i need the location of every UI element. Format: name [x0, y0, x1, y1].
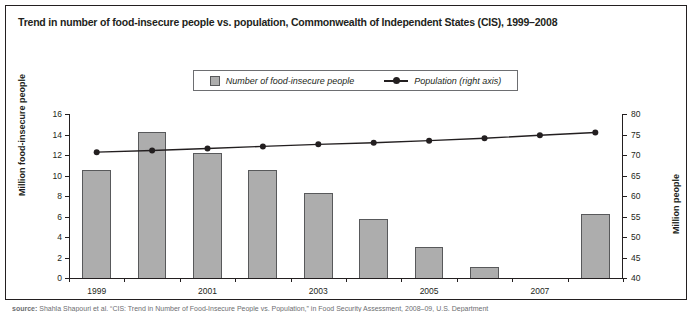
right-axis-tick: [623, 155, 627, 156]
right-axis-tick: [623, 237, 627, 238]
right-axis-tick-label: 75: [631, 131, 640, 140]
x-axis-tick: [180, 278, 181, 282]
right-axis-tick: [623, 114, 627, 115]
legend-swatch-icon: [210, 76, 220, 86]
left-axis-tick-label: 10: [53, 172, 62, 181]
population-point: 2007: 74.8: [537, 132, 543, 138]
source-text: Shahla Shapouri et al. “CIS: Trend in Nu…: [39, 305, 488, 312]
left-axis-tick-label: 16: [53, 110, 62, 119]
right-axis-tick-label: 60: [631, 192, 640, 201]
right-axis-tick: [623, 135, 627, 136]
population-point: 2000: 71.1: [149, 147, 155, 153]
legend-label-line: Population (right axis): [414, 76, 501, 86]
right-axis-tick: [623, 176, 627, 177]
figure-container: Trend in number of food-insecure people …: [0, 0, 692, 316]
figure-frame: Trend in number of food-insecure people …: [5, 5, 687, 300]
legend-entry-line: Population (right axis): [384, 76, 501, 86]
x-axis-tick-label: 2005: [420, 286, 439, 296]
x-axis-tick: [346, 278, 347, 282]
right-axis-title: Million people: [671, 174, 681, 234]
legend-label-bars: Number of food-insecure people: [226, 76, 355, 86]
right-axis-tick-label: 70: [631, 151, 640, 160]
population-point: 2008: 75.5: [592, 129, 598, 135]
legend-entry-bars: Number of food-insecure people: [210, 76, 355, 86]
figure-title: Trend in number of food-insecure people …: [18, 16, 557, 28]
x-axis-tick-label: 2007: [530, 286, 549, 296]
right-axis-tick: [623, 258, 627, 259]
x-axis-tick: [512, 278, 513, 282]
population-line: [97, 132, 596, 152]
population-point: 2006: 74.1: [482, 135, 488, 141]
right-axis-tick-label: 40: [631, 274, 640, 283]
right-axis-tick-label: 65: [631, 172, 640, 181]
x-axis-tick: [623, 278, 624, 282]
population-point: 2001: 71.6: [205, 145, 211, 151]
right-axis-tick-label: 50: [631, 233, 640, 242]
left-axis-tick-label: 8: [57, 192, 62, 201]
population-point: 2002: 72.1: [260, 143, 266, 149]
x-axis-tick-label: 1999: [87, 286, 106, 296]
x-axis-tick: [69, 278, 70, 282]
right-axis-tick: [623, 217, 627, 218]
legend-line-marker-icon: [384, 76, 408, 86]
left-axis-title: Million food-insecure people: [17, 74, 27, 196]
left-axis-tick-label: 0: [57, 274, 62, 283]
x-axis-tick-label: 2003: [309, 286, 328, 296]
right-axis-tick-label: 80: [631, 110, 640, 119]
x-axis-tick: [235, 278, 236, 282]
x-axis-tick: [457, 278, 458, 282]
chart-legend: Number of food-insecure people Populatio…: [193, 70, 518, 91]
plot-area: 0246810121416 404550556065707580 1999: 7…: [69, 114, 623, 278]
source-note: source: Shahla Shapouri et al. “CIS: Tre…: [12, 305, 682, 312]
x-axis-tick: [291, 278, 292, 282]
left-axis-tick-label: 4: [57, 233, 62, 242]
x-axis-tick: [124, 278, 125, 282]
right-axis-tick-label: 45: [631, 254, 640, 263]
left-axis-tick-label: 12: [53, 151, 62, 160]
x-axis-tick: [401, 278, 402, 282]
population-point: 2003: 72.6: [315, 141, 321, 147]
right-axis-tick-label: 55: [631, 213, 640, 222]
population-line-series: 1999: 70.72000: 71.12001: 71.62002: 72.1…: [69, 114, 623, 278]
left-axis-tick-label: 6: [57, 213, 62, 222]
left-axis-tick-label: 2: [57, 254, 62, 263]
population-point: 2004: 73: [371, 140, 377, 146]
population-point: 2005: 73.5: [426, 138, 432, 144]
population-point: 1999: 70.7: [94, 149, 100, 155]
left-axis-tick-label: 14: [53, 131, 62, 140]
right-axis-tick: [623, 196, 627, 197]
x-axis-tick: [568, 278, 569, 282]
source-label: source:: [12, 305, 37, 312]
x-axis-tick-label: 2001: [198, 286, 217, 296]
